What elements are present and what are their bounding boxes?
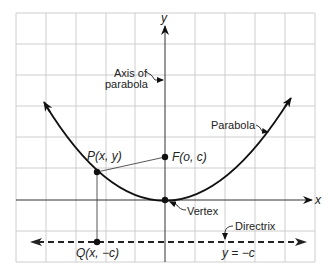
point-q [94, 239, 100, 245]
parabola-left-arrow-icon [44, 102, 50, 112]
directrix-label: Directrix [235, 220, 276, 232]
point-vertex [162, 197, 168, 203]
parabola-pointer-icon [256, 125, 268, 132]
point-focus [162, 154, 168, 160]
axis-of-parabola-pointer-icon [146, 72, 163, 80]
focus-label: F(o, c) [172, 150, 207, 164]
parabola-curve [45, 99, 290, 201]
axis-of-parabola-label-2: parabola [105, 78, 149, 90]
vertex-label: Vertex [187, 205, 219, 217]
point-p [94, 169, 100, 175]
vertex-pointer-icon [170, 202, 186, 210]
directrix-pointer-icon [225, 226, 233, 239]
x-axis-label: x [314, 193, 322, 207]
parabola-label: Parabola [211, 119, 256, 131]
parabola-diagram: x y Axis of parabola Parabola P(x, y) F(… [0, 0, 333, 278]
point-p-label: P(x, y) [87, 149, 122, 163]
point-q-label: Q(x, −c) [76, 246, 119, 260]
y-axis-label: y [160, 11, 168, 25]
directrix-right-arrow-icon [295, 238, 307, 246]
directrix-equation: y = −c [221, 246, 255, 260]
